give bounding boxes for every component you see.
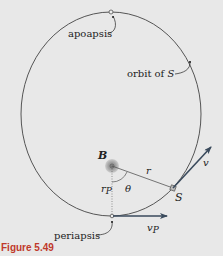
velocity-label: v (203, 157, 209, 168)
orbit-leader (175, 61, 190, 74)
apoapsis-label: apoapsis (68, 28, 112, 39)
periapsis-radius-label: rP (101, 183, 113, 196)
body-label: B (97, 149, 107, 162)
angle-arc (112, 172, 127, 182)
radius-line (112, 166, 173, 188)
angle-label: θ (125, 183, 131, 194)
periapsis-label: periapsis (54, 230, 100, 241)
apoapsis-point (109, 10, 113, 14)
figure-caption: Figure 5.49 (1, 242, 54, 253)
periapsis-velocity-label: vP (147, 222, 160, 235)
radius-label: r (146, 165, 152, 176)
orbit-label: orbit of S (127, 68, 175, 79)
orbit-diagram: apoapsis orbit of S B rP r θ S v vP peri… (0, 0, 223, 256)
satellite-label: S (175, 191, 183, 204)
